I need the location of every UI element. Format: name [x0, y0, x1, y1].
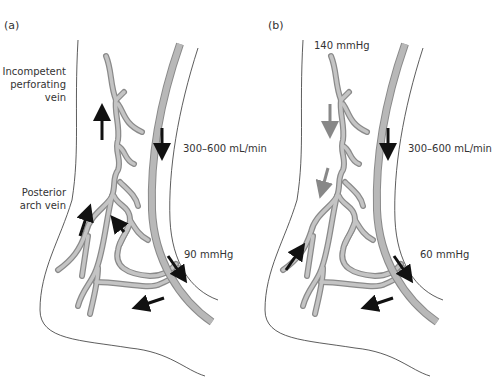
panel-a-diagram — [40, 40, 218, 376]
panel-b-diagram — [265, 40, 443, 376]
leftward-arrow-icon — [140, 298, 164, 306]
panel-a-label: (a) — [4, 20, 19, 32]
incompetent-label-line3: vein — [45, 92, 66, 104]
panel-b-top-pressure-label: 140 mmHg — [314, 40, 370, 52]
panel-b-label: (b) — [268, 20, 284, 32]
posterior-label-line2: arch vein — [20, 200, 66, 212]
leftward-arrow-icon — [369, 298, 393, 306]
inward-arrow-icon — [116, 222, 124, 232]
panel-a-pressure-label: 90 mmHg — [184, 249, 233, 261]
incompetent-label-line2: perforating — [10, 79, 66, 91]
panel-a-flow-label: 300–600 mL/min — [183, 143, 267, 155]
panel-b-pressure-label: 60 mmHg — [420, 249, 469, 261]
panel-b-flow-label: 300–600 mL/min — [408, 143, 492, 155]
incompetent-label-line1: Incompetent — [3, 66, 66, 78]
posterior-label-line1: Posterior — [22, 187, 66, 199]
grey-downward-arrow-icon — [322, 168, 328, 190]
